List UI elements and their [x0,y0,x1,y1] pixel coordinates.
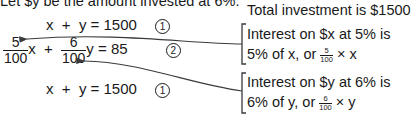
bracket-interest-y [242,73,246,113]
arrow-to-5-over-100 [27,37,242,44]
bracket-interest-x [242,24,246,64]
annotation-arrows [0,0,411,120]
arrow-to-6-over-100 [84,61,242,91]
